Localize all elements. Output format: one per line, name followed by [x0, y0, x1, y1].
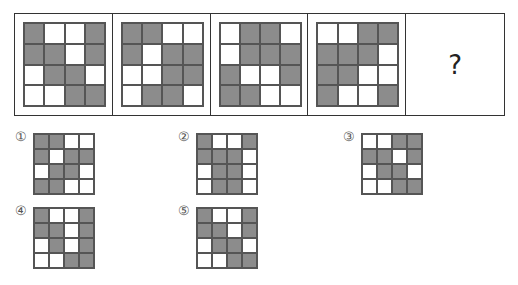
gray-cell	[212, 238, 227, 253]
gray-cell	[197, 134, 212, 149]
white-cell	[212, 253, 227, 268]
white-cell	[64, 238, 79, 253]
pattern-grid	[196, 207, 258, 269]
gray-cell	[85, 85, 105, 106]
gray-cell	[260, 44, 280, 65]
gray-cell	[44, 44, 64, 65]
gray-cell	[212, 149, 227, 164]
gray-cell	[260, 23, 280, 44]
white-cell	[242, 179, 257, 194]
white-cell	[183, 85, 203, 106]
white-cell	[362, 164, 377, 179]
white-cell	[227, 208, 242, 223]
white-cell	[242, 149, 257, 164]
white-cell	[280, 23, 300, 44]
gray-cell	[392, 164, 407, 179]
white-cell	[362, 134, 377, 149]
gray-cell	[197, 149, 212, 164]
sequence-box-3	[211, 14, 309, 115]
gray-cell	[34, 208, 49, 223]
option-number: ③	[343, 129, 355, 144]
gray-cell	[162, 85, 182, 106]
white-cell	[122, 85, 142, 106]
gray-cell	[85, 44, 105, 65]
gray-cell	[242, 253, 257, 268]
gray-cell	[317, 85, 337, 106]
pattern-grid	[121, 22, 204, 107]
option-2[interactable]: ②	[196, 133, 258, 195]
option-number: ④	[15, 203, 27, 218]
gray-cell	[240, 85, 260, 106]
option-5[interactable]: ⑤	[196, 207, 258, 269]
white-cell	[362, 179, 377, 194]
gray-cell	[49, 134, 64, 149]
question-mark: ?	[406, 50, 504, 80]
gray-cell	[392, 179, 407, 194]
option-number: ⑤	[178, 203, 190, 218]
gray-cell	[65, 85, 85, 106]
white-cell	[65, 44, 85, 65]
gray-cell	[407, 179, 422, 194]
white-cell	[220, 23, 240, 44]
gray-cell	[162, 65, 182, 86]
gray-cell	[79, 253, 94, 268]
white-cell	[49, 253, 64, 268]
option-1[interactable]: ①	[33, 133, 95, 195]
white-cell	[85, 65, 105, 86]
white-cell	[162, 23, 182, 44]
white-cell	[377, 179, 392, 194]
option-4[interactable]: ④	[33, 207, 95, 269]
gray-cell	[49, 164, 64, 179]
white-cell	[317, 23, 337, 44]
white-cell	[392, 149, 407, 164]
gray-cell	[407, 134, 422, 149]
gray-cell	[338, 65, 358, 86]
sequence-box-4	[308, 14, 406, 115]
gray-cell	[79, 208, 94, 223]
gray-cell	[142, 85, 162, 106]
gray-cell	[362, 149, 377, 164]
gray-cell	[64, 253, 79, 268]
gray-cell	[212, 223, 227, 238]
gray-cell	[162, 44, 182, 65]
gray-cell	[240, 44, 260, 65]
gray-cell	[338, 44, 358, 65]
pattern-grid	[33, 133, 95, 195]
white-cell	[338, 85, 358, 106]
gray-cell	[317, 65, 337, 86]
gray-cell	[122, 44, 142, 65]
white-cell	[49, 208, 64, 223]
gray-cell	[65, 65, 85, 86]
option-3[interactable]: ③	[361, 133, 423, 195]
gray-cell	[392, 134, 407, 149]
gray-cell	[358, 23, 378, 44]
white-cell	[44, 85, 64, 106]
pattern-grid	[23, 22, 106, 107]
white-cell	[79, 179, 94, 194]
answer-box: ?	[406, 14, 504, 115]
white-cell	[197, 164, 212, 179]
white-cell	[377, 134, 392, 149]
white-cell	[34, 164, 49, 179]
white-cell	[260, 65, 280, 86]
white-cell	[220, 44, 240, 65]
gray-cell	[49, 223, 64, 238]
pattern-grid	[33, 207, 95, 269]
white-cell	[197, 238, 212, 253]
pattern-grid	[196, 133, 258, 195]
white-cell	[79, 134, 94, 149]
gray-cell	[49, 179, 64, 194]
gray-cell	[64, 164, 79, 179]
gray-cell	[64, 149, 79, 164]
white-cell	[142, 44, 162, 65]
gray-cell	[242, 208, 257, 223]
gray-cell	[377, 164, 392, 179]
gray-cell	[44, 65, 64, 86]
white-cell	[44, 23, 64, 44]
gray-cell	[24, 44, 44, 65]
gray-cell	[212, 179, 227, 194]
gray-cell	[227, 164, 242, 179]
gray-cell	[220, 65, 240, 86]
gray-cell	[34, 179, 49, 194]
gray-cell	[317, 44, 337, 65]
